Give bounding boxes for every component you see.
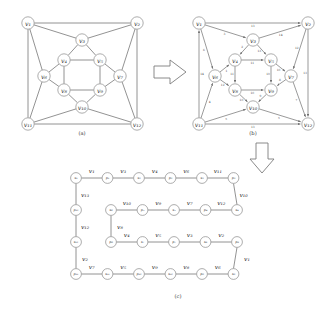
- panel-a-edge: [105, 80, 115, 87]
- panel-b-node-label: v₆: [212, 73, 218, 80]
- panel-b-edge-weight: 10: [266, 72, 270, 76]
- panel-c-right-edge: [234, 247, 238, 268]
- panel-a-edge: [68, 45, 78, 56]
- panel-a-node-label: v₁₀: [78, 104, 87, 111]
- figure-svg: v₁v₂v₃v₄v₅v₆v₇v₈v₉v₁₀v₁₁v₁₂ (a) 13361414…: [0, 0, 329, 313]
- panel-b-edge-weight: 1: [225, 69, 227, 73]
- panel-b-node-label: v₉: [268, 87, 274, 94]
- panel-b-caption: (b): [249, 130, 256, 136]
- panel-c-caption: (c): [175, 293, 182, 299]
- panel-a-node-label: v₆: [41, 73, 47, 80]
- panel-b-node-label: v₃: [250, 37, 256, 44]
- panel-b-node-label: v₅: [268, 57, 274, 64]
- panel-a-edge: [30, 82, 42, 118]
- panel-c-node-label: p₁₀: [137, 272, 143, 276]
- panel-b-node-label: v₁₁: [195, 121, 203, 128]
- panel-c-edge-label: v₆: [215, 263, 221, 270]
- panel-b-edge-weight: 9: [260, 94, 262, 98]
- panel-a-nodes: v₁v₂v₃v₄v₅v₆v₇v₈v₉v₁₀v₁₁v₁₂: [22, 17, 143, 130]
- panel-a-edge: [49, 80, 59, 87]
- panel-c-node-label: p₁₂: [74, 208, 80, 212]
- panel-c-left-edge-label: v₂: [82, 255, 88, 262]
- panel-c-edge-label: v₁₀: [123, 199, 132, 206]
- panel-c-node-label: s₁₁: [105, 272, 109, 276]
- panel-a-node-label: v₅: [97, 57, 103, 64]
- panel-c-edge-label: v₈: [183, 263, 189, 270]
- panel-a-caption: (a): [78, 130, 85, 136]
- panel-b-edge-weight: 13: [251, 24, 255, 28]
- panel-c-edge-label: v₇: [187, 199, 193, 206]
- panel-a-edge: [34, 25, 76, 38]
- panel-b-edge-weight: 11: [250, 61, 254, 65]
- panel-b-edge-weight: 3: [224, 32, 226, 36]
- panel-a-edge: [86, 45, 96, 56]
- panel-c-edge-label: v₃: [120, 167, 126, 174]
- panel-a-node-label: v₁₂: [133, 121, 142, 128]
- arrow-down-icon: [250, 143, 274, 173]
- panel-b-edge-weight: 10: [250, 91, 254, 95]
- panel-b-node-label: v₁₀: [249, 104, 258, 111]
- panel-c-edge-label: v₇: [89, 263, 95, 270]
- panel-c-left-edge-label: v₁₃: [81, 191, 90, 198]
- panel-c-edge-label: v₁₂: [217, 199, 226, 206]
- panel-a-node-label: v₄: [61, 57, 67, 64]
- panel-b-edge-weight: 8: [279, 78, 281, 82]
- panel-a-edge: [122, 29, 135, 70]
- panel-c-edge-label: v₁₁: [214, 167, 222, 174]
- panel-a-edge: [87, 94, 96, 102]
- panel-b-node-label: v₄: [232, 57, 238, 64]
- panel-c-edge-label: v₃: [187, 231, 193, 238]
- panel-b-edge-weight: 10: [240, 98, 244, 102]
- panel-b-edge-weight: 10: [277, 68, 281, 72]
- panel-c-edge-label: v₅: [120, 263, 126, 270]
- panel-c-edge-label: v₄: [152, 167, 158, 174]
- panel-b-edge-weight: 14: [200, 72, 204, 76]
- panel-a-edge: [30, 29, 42, 70]
- panel-c-middle-edge-label: v₈: [117, 223, 123, 230]
- panel-a-edge: [34, 109, 76, 122]
- panel-c-node-label: s₁: [74, 176, 77, 180]
- panel-c-edge-label: v₉: [152, 263, 158, 270]
- panel-a-edge: [69, 94, 78, 102]
- panel-b-node-label: v₂: [305, 20, 311, 27]
- panel-a-edge: [122, 82, 135, 118]
- panel-b-edge-weight: 4: [209, 100, 211, 104]
- panel-c-edge-label: v₄: [124, 231, 130, 238]
- panel-a-edge: [88, 25, 131, 38]
- panel-a-node-label: v₁: [25, 20, 31, 27]
- panel-c-node-label: p₁: [106, 176, 110, 180]
- panel-c-edges: [76, 178, 237, 274]
- panel-c-edge-label: v₁: [89, 167, 95, 174]
- panel-a-edge: [49, 64, 59, 72]
- panel-b-node-label: v₁₂: [304, 121, 313, 128]
- panel-b-edge-weight: 14: [279, 33, 283, 37]
- panel-c: s₁p₁s₂p₂s₃p₃s₆p₅s₅p₄s₄p₆s₇p₇s₈p₈p₁₁s₁₁p₁…: [71, 167, 250, 299]
- panel-c-left-edge-label: v₁₂: [81, 223, 90, 230]
- panel-b-edge-weight: 5: [225, 117, 227, 121]
- panel-b-edge-weight: 13: [257, 49, 261, 53]
- panel-c-edge-label: v₅: [155, 231, 161, 238]
- panel-b-edge-weight: 11: [230, 72, 234, 76]
- panel-b-node-label: v₈: [232, 87, 238, 94]
- panel-c-right-edge-label: v₁: [244, 255, 250, 262]
- panel-b-edge-weight: 13: [251, 125, 255, 129]
- panel-b-edge-weight: 5: [278, 116, 280, 120]
- panel-b-node-label: v₇: [288, 73, 294, 80]
- panel-b-nodes: v₁v₂v₃v₄v₅v₆v₇v₈v₉v₁₀v₁₁v₁₂: [193, 17, 314, 130]
- panel-a-node-label: v₃: [79, 37, 85, 44]
- panel-c-edge-label: v₆: [183, 167, 189, 174]
- panel-b-edge: [201, 83, 213, 118]
- panel-c-node-label: s₁₂: [74, 240, 79, 244]
- panel-a-node-label: v₇: [117, 73, 123, 80]
- panel-b-edge-weight: 12: [221, 83, 225, 87]
- panel-a-edge: [88, 109, 131, 122]
- panel-b-node-label: v₁: [196, 20, 202, 27]
- panel-b: 13361414121321311111101012487101095513 v…: [193, 17, 314, 136]
- panel-c-edge-label: v₂: [218, 231, 224, 238]
- panel-a-node-label: v₉: [97, 87, 103, 94]
- panel-b-edge-weight: 12: [295, 46, 299, 50]
- panel-b-edge-weight: 7: [296, 98, 298, 102]
- panel-b-edge-weight: 2: [241, 45, 243, 49]
- panel-c-right-edge-label: v₁₀: [239, 191, 248, 198]
- arrow-right-icon: [154, 60, 186, 84]
